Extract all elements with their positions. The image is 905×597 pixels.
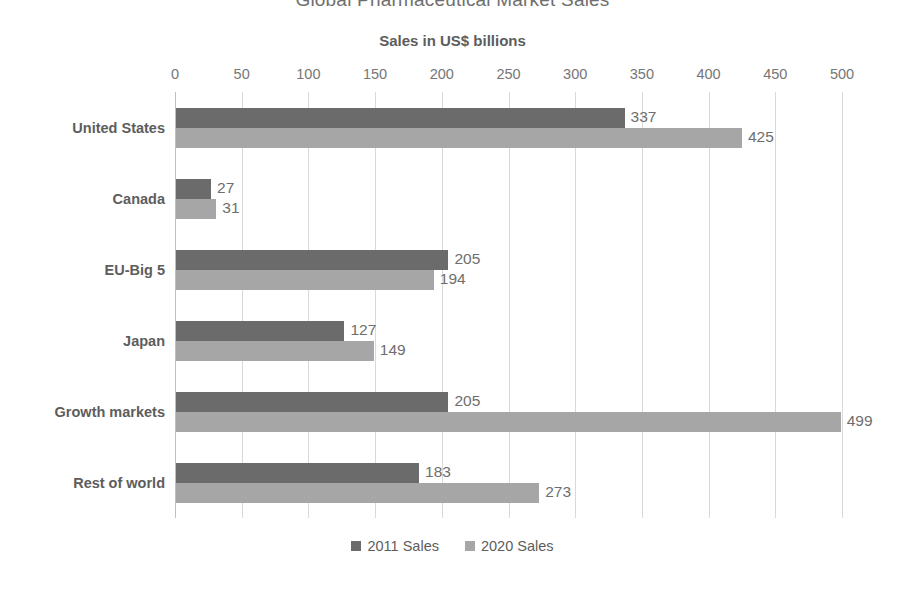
x-tick-label: 50 <box>234 66 250 82</box>
bar <box>175 250 448 270</box>
chart-legend: 2011 Sales2020 Sales <box>0 538 905 554</box>
gridline <box>308 92 309 518</box>
bar <box>175 108 625 128</box>
bar <box>175 341 374 361</box>
bar-group: 2731 <box>175 179 842 219</box>
gridline <box>509 92 510 518</box>
bar-value-label: 27 <box>217 178 234 198</box>
bar-group: 205194 <box>175 250 842 290</box>
bar-value-label: 31 <box>222 198 239 218</box>
bar-value-label: 425 <box>748 127 774 147</box>
legend-item[interactable]: 2011 Sales <box>351 538 438 554</box>
bar-value-label: 194 <box>440 269 466 289</box>
x-tick-label: 0 <box>171 66 179 82</box>
bar-value-label: 127 <box>350 320 376 340</box>
gridline <box>775 92 776 518</box>
x-tick-label: 150 <box>363 66 387 82</box>
gridline <box>575 92 576 518</box>
bar <box>175 321 344 341</box>
bar-value-label: 337 <box>631 107 657 127</box>
x-tick-label: 300 <box>563 66 587 82</box>
bar-value-label: 205 <box>454 249 480 269</box>
bar <box>175 179 211 199</box>
legend-item[interactable]: 2020 Sales <box>465 538 554 554</box>
bar-chart: Global Pharmaceutical Market Sales Sales… <box>0 0 905 597</box>
gridline <box>375 92 376 518</box>
gridline <box>642 92 643 518</box>
bar-value-label: 183 <box>425 462 451 482</box>
legend-label: 2020 Sales <box>481 538 554 554</box>
gridline <box>709 92 710 518</box>
legend-swatch-icon <box>351 541 361 551</box>
bar-group: 127149 <box>175 321 842 361</box>
bar <box>175 199 216 219</box>
gridline <box>442 92 443 518</box>
bar-value-label: 205 <box>454 391 480 411</box>
category-label: Canada <box>0 191 165 207</box>
bar <box>175 392 448 412</box>
bar-value-label: 273 <box>545 482 571 502</box>
category-label: Growth markets <box>0 404 165 420</box>
category-label: United States <box>0 120 165 136</box>
bar <box>175 463 419 483</box>
bar <box>175 128 742 148</box>
x-tick-label: 200 <box>430 66 454 82</box>
legend-swatch-icon <box>465 541 475 551</box>
bar <box>175 412 841 432</box>
category-label: Japan <box>0 333 165 349</box>
bar-value-label: 149 <box>380 340 406 360</box>
bar <box>175 270 434 290</box>
y-axis-line <box>175 92 176 518</box>
category-label: EU-Big 5 <box>0 262 165 278</box>
gridline <box>842 92 843 518</box>
bar-group: 337425 <box>175 108 842 148</box>
x-tick-label: 500 <box>830 66 854 82</box>
x-tick-label: 450 <box>763 66 787 82</box>
x-tick-label: 100 <box>296 66 320 82</box>
bar-group: 183273 <box>175 463 842 503</box>
plot-area: 3374252731205194127149205499183273 <box>175 92 842 518</box>
bar-group: 205499 <box>175 392 842 432</box>
category-label: Rest of world <box>0 475 165 491</box>
bar-value-label: 499 <box>847 411 873 431</box>
gridline <box>242 92 243 518</box>
x-tick-label: 400 <box>696 66 720 82</box>
category-axis-labels: United StatesCanadaEU-Big 5JapanGrowth m… <box>0 0 165 597</box>
x-tick-label: 250 <box>496 66 520 82</box>
x-tick-label: 350 <box>630 66 654 82</box>
bar <box>175 483 539 503</box>
legend-label: 2011 Sales <box>367 538 438 554</box>
